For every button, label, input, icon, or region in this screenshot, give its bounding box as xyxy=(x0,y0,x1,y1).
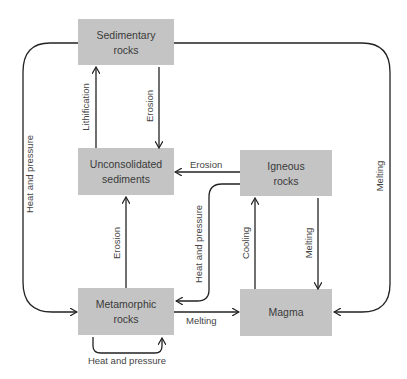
node-magma: Magma xyxy=(240,289,332,336)
node-igneous-rocks: Igneous rocks xyxy=(240,150,332,196)
node-label-line2: rocks xyxy=(273,175,298,187)
node-label-line1: Sedimentary xyxy=(97,29,157,41)
edge-melting-meta-to-magma: Melting xyxy=(174,312,239,326)
node-label-line2: rocks xyxy=(113,313,138,325)
edge-heat-pressure-sed-to-meta: Heat and pressure xyxy=(23,43,78,312)
edge-cooling: Cooling xyxy=(240,198,255,289)
node-sedimentary-rocks: Sedimentary rocks xyxy=(78,19,174,65)
edge-heat-pressure-ign-to-meta: Heat and pressure xyxy=(176,184,240,301)
node-metamorphic-rocks: Metamorphic rocks xyxy=(78,288,174,335)
edge-erosion-ign-to-unc: Erosion xyxy=(175,159,240,172)
edge-heat-pressure-meta-self: Heat and pressure xyxy=(88,337,166,366)
edge-label: Cooling xyxy=(240,227,251,259)
node-label-line2: sediments xyxy=(102,173,150,185)
edge-label: Heat and pressure xyxy=(193,205,204,283)
edge-label: Melting xyxy=(303,228,314,259)
node-unconsolidated-sediments: Unconsolidated sediments xyxy=(78,148,174,195)
edge-label: Erosion xyxy=(144,90,155,122)
node-label-line1: Magma xyxy=(268,306,303,318)
edge-melting-ign-to-magma: Melting xyxy=(303,198,318,289)
edge-label: Erosion xyxy=(111,227,122,259)
node-label-line1: Metamorphic xyxy=(96,298,157,310)
node-label-line2: rocks xyxy=(113,44,138,56)
edge-erosion-meta-to-unc: Erosion xyxy=(111,197,126,288)
edge-label: Melting xyxy=(374,161,385,192)
rock-cycle-diagram: Sedimentary rocks Unconsolidated sedimen… xyxy=(0,0,407,379)
node-label-line1: Unconsolidated xyxy=(90,158,163,170)
edge-label: Heat and pressure xyxy=(24,135,35,213)
edge-label: Lithification xyxy=(80,83,91,131)
edge-lithification: Lithification xyxy=(80,67,96,148)
edge-label: Melting xyxy=(186,315,217,326)
node-label-line1: Igneous xyxy=(267,160,304,172)
edge-erosion-sed-to-unc: Erosion xyxy=(144,67,159,148)
edge-label: Erosion xyxy=(190,159,222,170)
edge-label: Heat and pressure xyxy=(88,355,166,366)
